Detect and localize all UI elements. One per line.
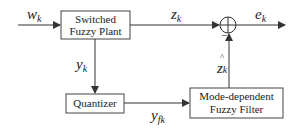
z-hat-label: zk xyxy=(216,60,228,76)
minus-sign: − xyxy=(221,29,227,41)
filter-label-line2: Fuzzy Filter xyxy=(210,103,264,115)
switched-fuzzy-plant-block: Switched Fuzzy Plant xyxy=(61,11,130,39)
quantizer-block: Quantizer xyxy=(66,94,124,113)
filter-label-line1: Mode-dependent xyxy=(199,90,274,102)
input-label: wk xyxy=(27,6,42,24)
e-label: ek xyxy=(255,6,267,24)
plant-label-line2: Fuzzy Plant xyxy=(69,25,121,37)
block-diagram: wk Switched Fuzzy Plant zk ek yk Quantiz… xyxy=(0,0,300,129)
quantizer-label: Quantizer xyxy=(73,97,117,109)
yf-label: yfk xyxy=(149,107,165,125)
z-label: zk xyxy=(170,6,182,24)
mode-dependent-fuzzy-filter-block: Mode-dependent Fuzzy Filter xyxy=(190,88,283,118)
plant-label-line1: Switched xyxy=(75,13,116,25)
y-label: yk xyxy=(74,56,88,74)
